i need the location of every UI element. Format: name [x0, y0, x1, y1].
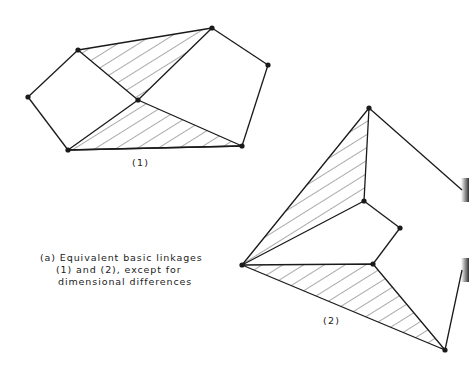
linkage-2-label: (2) [323, 315, 340, 326]
linkage-1-bar-link-2 [28, 97, 68, 150]
caption-line-2: (1) and (2), except for [56, 264, 203, 276]
linkage-1-joint-2 [209, 25, 214, 30]
linkage-1-bar-link-1 [28, 50, 78, 97]
linkage-1-joint-6 [65, 147, 70, 152]
linkage-2-bar-link-2 [373, 228, 400, 264]
linkage-1-label: (1) [132, 157, 149, 168]
linkage-2-bar-link-3 [369, 108, 462, 190]
linkage-1-joint-1 [75, 47, 80, 52]
linkage-2-bar-link-1 [364, 201, 400, 228]
linkage-2-joint-4 [370, 261, 375, 266]
linkage-2-joint-2 [361, 198, 366, 203]
figure-caption: (a) Equivalent basic linkages (1) and (2… [40, 252, 203, 288]
linkage-1-joint-5 [135, 97, 140, 102]
caption-line-1: (a) Equivalent basic linkages [40, 252, 203, 264]
linkage-2-bar-link-4 [445, 270, 462, 350]
linkage-2-joint-6 [442, 347, 447, 352]
linkage-2-hatched-link-1 [242, 108, 369, 265]
linkage-2 [239, 105, 462, 352]
linkage-diagram [0, 0, 469, 374]
linkage-2-hatched-link-2 [242, 264, 445, 350]
linkage-1-bar-link-3 [212, 28, 268, 65]
linkage-2-joint-1 [366, 105, 371, 110]
linkage-1-bar-link-4 [242, 65, 268, 146]
page-edge-shadow-bottom [461, 258, 469, 282]
linkage-2-joint-3 [397, 225, 402, 230]
linkage-1-joint-4 [25, 94, 30, 99]
linkage-1-hatched-link-1 [78, 28, 212, 100]
page-edge-shadow-top [461, 178, 469, 202]
linkage-1-hatched-link-2 [68, 100, 242, 150]
linkage-1-joint-3 [265, 62, 270, 67]
linkage-1-joint-7 [239, 143, 244, 148]
linkage-1 [25, 25, 270, 152]
caption-line-3: dimensional differences [58, 276, 203, 288]
linkage-2-joint-5 [239, 262, 244, 267]
